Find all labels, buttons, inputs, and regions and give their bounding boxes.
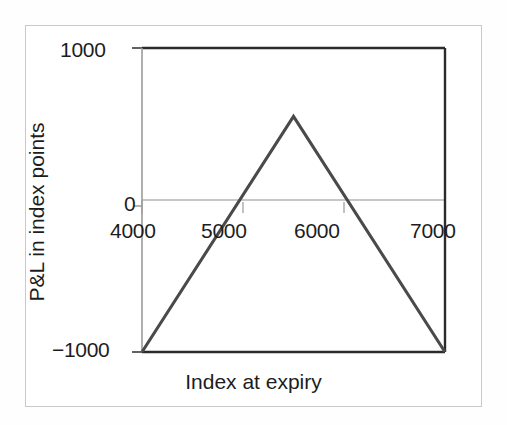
y-tick-label-0: 0 bbox=[124, 192, 135, 216]
y-tick-label-neg1000: −1000 bbox=[52, 338, 109, 362]
x-tick-label-5000: 5000 bbox=[201, 219, 247, 243]
x-axis-title: Index at expiry bbox=[0, 370, 507, 394]
x-tick-label-6000: 6000 bbox=[294, 219, 340, 243]
x-tick-label-7000: 7000 bbox=[410, 219, 456, 243]
y-tick-label-1000: 1000 bbox=[60, 38, 106, 62]
y-axis-title: P&L in index points bbox=[25, 72, 49, 352]
chart-figure: 1000 0 −1000 4000 5000 6000 7000 Index a… bbox=[0, 0, 507, 425]
x-tick-label-4000: 4000 bbox=[110, 219, 156, 243]
